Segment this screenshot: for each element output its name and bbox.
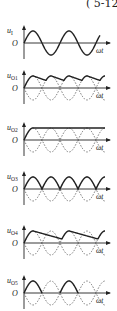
y-axis-arrow-icon — [22, 25, 26, 30]
x-axis-label: ωt — [96, 46, 104, 55]
origin-label: O — [12, 289, 18, 298]
y-axis-arrow-icon — [22, 70, 26, 75]
panel-uO3: uO3Oωt — [7, 171, 111, 205]
y-axis-arrow-icon — [22, 122, 26, 127]
panel-uO2: uO2Oωt — [7, 122, 111, 156]
y-axis-label: uO2 — [7, 123, 18, 133]
origin-label: O — [12, 136, 18, 145]
panel-uO4: uO4Oωt — [7, 225, 111, 259]
x-axis-arrow-icon — [106, 187, 111, 191]
origin-label: O — [12, 39, 18, 48]
x-axis-arrow-icon — [106, 41, 111, 45]
y-axis-label: uO4 — [7, 226, 18, 236]
panel-uO5: uO5Oωt — [7, 275, 111, 309]
y-axis-label: uO5 — [7, 276, 18, 286]
x-axis-arrow-icon — [106, 138, 111, 142]
y-axis-label: uO3 — [7, 172, 18, 182]
y-axis-arrow-icon — [22, 171, 26, 176]
origin-label: O — [12, 239, 18, 248]
y-axis-label: uI — [7, 26, 13, 36]
waveform-diagram: uIOωtuO1OωtuO2OωtuO3OωtuO4OωtuO5Oωt — [0, 0, 117, 311]
y-axis-arrow-icon — [22, 275, 26, 280]
x-axis-arrow-icon — [106, 291, 111, 295]
panel-uI: uIOωt — [7, 25, 111, 59]
y-axis-arrow-icon — [22, 225, 26, 230]
origin-label: O — [12, 84, 18, 93]
panel-uO1: uO1Oωt — [7, 70, 111, 104]
origin-label: O — [12, 185, 18, 194]
y-axis-label: uO1 — [7, 71, 18, 81]
x-axis-arrow-icon — [106, 241, 111, 245]
x-axis-arrow-icon — [106, 86, 111, 90]
